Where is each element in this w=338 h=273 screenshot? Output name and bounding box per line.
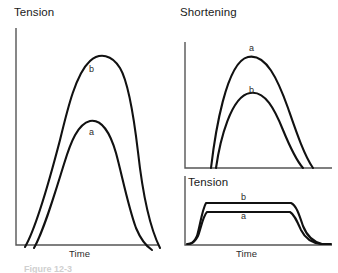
figure-container: Tension Shortening Tension Time Time b a… [0,0,338,273]
top-right-curve-label-a: a [249,43,254,53]
figure-graphics [0,0,338,273]
left-panel-x-axis-label: Time [69,248,90,259]
top-right-panel-axes [185,42,332,168]
panel-left-tension [16,28,160,250]
bottom-right-panel-title: Tension [188,176,228,188]
left-curve-a [34,121,152,250]
bottom-right-curve-label-b: b [241,192,246,202]
panel-top-right-shortening [185,42,332,168]
bottom-right-curve-a [188,212,330,244]
top-right-curve-label-b: b [249,85,254,95]
left-panel-title: Tension [14,6,54,18]
top-right-curve-a [211,57,313,168]
top-right-panel-title: Shortening [180,6,237,18]
bottom-right-panel-x-axis-label: Time [236,248,257,259]
top-right-curve-b [216,93,303,168]
bottom-right-curve-b [187,203,331,244]
bottom-right-curve-label-a: a [241,211,246,221]
figure-caption: Figure 12-3 [24,264,72,273]
left-curve-label-a: a [89,127,94,137]
left-curve-label-b: b [89,64,94,74]
